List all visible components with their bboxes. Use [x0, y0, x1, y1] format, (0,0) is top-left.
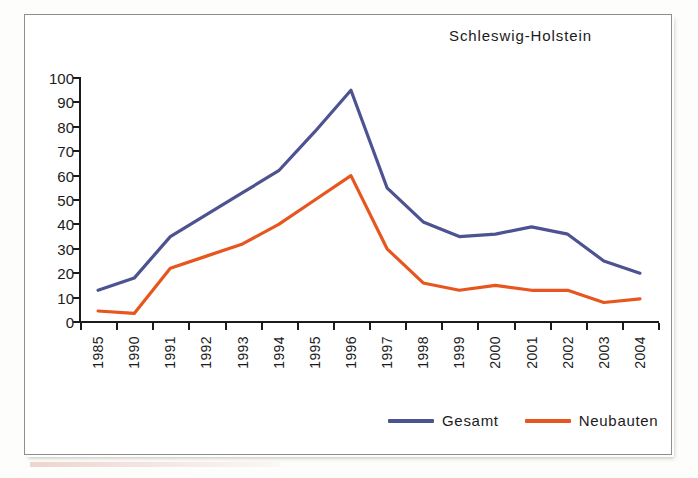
- scanned-page: Schleswig-Holstein 100908070605040302010…: [0, 0, 698, 478]
- chart-legend: GesamtNeubauten: [388, 412, 658, 429]
- legend-swatch-icon: [388, 419, 434, 423]
- legend-swatch-icon: [525, 419, 571, 423]
- series-line-neubauten: [98, 176, 640, 314]
- series-line-gesamt: [98, 90, 640, 290]
- legend-item-gesamt: Gesamt: [388, 412, 499, 429]
- series-lines: [0, 0, 698, 478]
- legend-item-neubauten: Neubauten: [525, 412, 659, 429]
- legend-label: Gesamt: [442, 412, 499, 429]
- legend-label: Neubauten: [579, 412, 659, 429]
